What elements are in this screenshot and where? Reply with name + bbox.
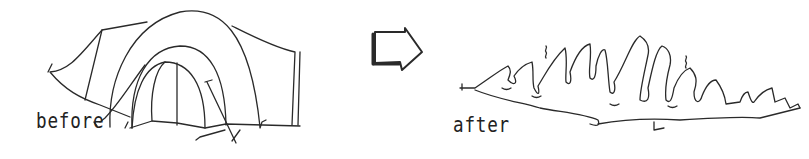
tent-drawing xyxy=(0,0,809,159)
arrow-right-icon xyxy=(373,28,422,70)
illustration-canvas: before after xyxy=(0,0,809,159)
tent-after-icon xyxy=(460,36,800,130)
after-label: after xyxy=(453,112,510,137)
before-label: before xyxy=(36,108,104,133)
